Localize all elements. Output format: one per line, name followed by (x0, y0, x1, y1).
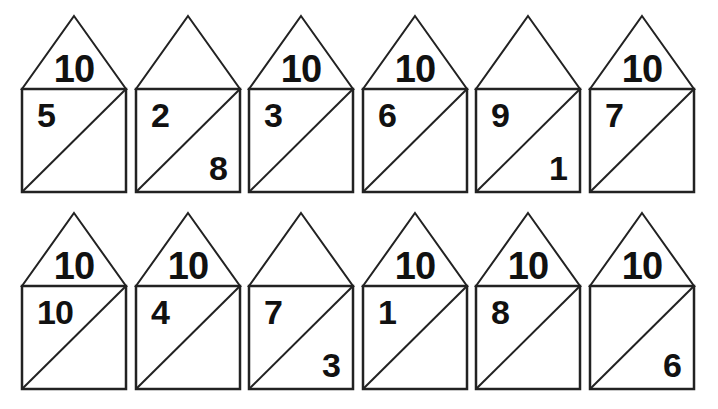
number-house: 1010 (21, 212, 127, 390)
roof-number: 10 (248, 50, 354, 88)
number-house: 106 (362, 15, 468, 193)
left-part-number: 3 (264, 98, 282, 132)
left-part-number: 6 (378, 98, 396, 132)
left-part-number: 4 (151, 295, 169, 329)
roof-number: 10 (475, 247, 581, 285)
right-part-number: 3 (322, 348, 340, 382)
left-part-number: 7 (264, 295, 282, 329)
left-part-number: 5 (37, 98, 55, 132)
number-house: 91 (475, 15, 581, 193)
roof-number: 10 (21, 247, 127, 285)
number-house: 101 (362, 212, 468, 390)
roof-number: 10 (362, 247, 468, 285)
roof-number: 10 (21, 50, 127, 88)
left-part-number: 10 (37, 295, 73, 329)
roof-number: 10 (589, 247, 695, 285)
number-house: 103 (248, 15, 354, 193)
roof-number: 10 (589, 50, 695, 88)
number-house: 108 (475, 212, 581, 390)
roof-triangle (249, 213, 353, 286)
roof-number: 10 (135, 247, 241, 285)
left-part-number: 1 (378, 295, 396, 329)
number-house: 28 (135, 15, 241, 193)
number-house: 105 (21, 15, 127, 193)
left-part-number: 8 (491, 295, 509, 329)
roof-triangle (476, 16, 580, 89)
number-house: 106 (589, 212, 695, 390)
left-part-number: 7 (605, 98, 623, 132)
number-house-worksheet: 1052810310691107101010473101108106 (0, 0, 718, 409)
roof-number: 10 (362, 50, 468, 88)
left-part-number: 2 (151, 98, 169, 132)
number-house: 107 (589, 15, 695, 193)
roof-triangle (136, 16, 240, 89)
right-part-number: 8 (209, 151, 227, 185)
right-part-number: 1 (549, 151, 567, 185)
right-part-number: 6 (663, 348, 681, 382)
number-house: 104 (135, 212, 241, 390)
number-house: 73 (248, 212, 354, 390)
left-part-number: 9 (491, 98, 509, 132)
